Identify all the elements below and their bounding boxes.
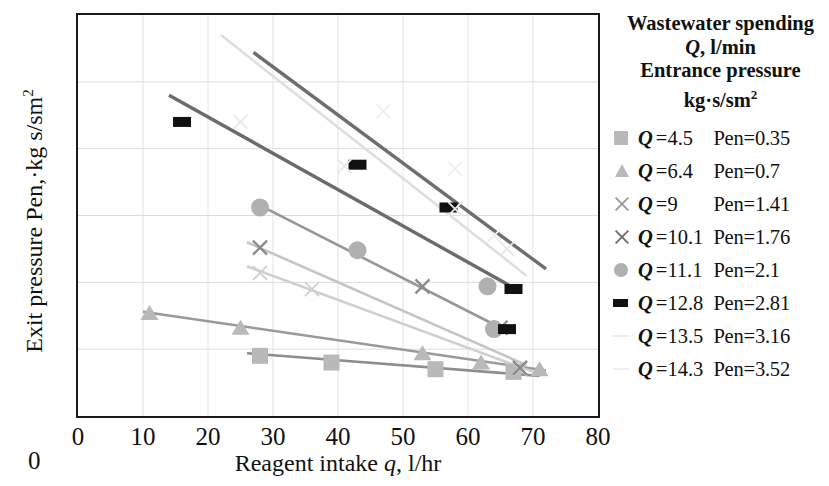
legend-marker-triangle	[615, 164, 629, 177]
x-tick-label: 10	[113, 424, 173, 449]
legend-item-q-symbol: Q	[638, 259, 653, 282]
legend-item-pen-value: Pen=3.16	[713, 325, 790, 348]
legend-marker-rect	[613, 299, 628, 307]
legend-marker-slot	[612, 227, 634, 247]
legend-title-pressure-units: kg·s/sm	[684, 88, 751, 110]
legend-marker-dash	[613, 335, 629, 337]
legend-item[interactable]: Q=11.1Pen=2.1	[612, 254, 829, 287]
x-axis-title: Reagent intake q, l/hr	[76, 450, 600, 477]
legend-item[interactable]: Q=4.5Pen=0.35	[612, 122, 829, 155]
legend-item[interactable]: Q=12.8Pen=2.81	[612, 287, 829, 320]
y-axis-title-superscript: 2	[20, 89, 36, 97]
legend-item[interactable]: Q=6.4Pen=0.7	[612, 155, 829, 188]
legend-item-equals: =	[656, 127, 668, 150]
legend-item-q-symbol: Q	[638, 160, 653, 183]
chart-figure: 32.521.510.50 01020304050607080 0 Exit p…	[0, 0, 829, 486]
legend-item-q-value: 11.1	[667, 259, 713, 282]
legend-item-pen-value: Pen=0.35	[713, 127, 790, 150]
legend-marker-slot	[612, 194, 634, 214]
legend-item[interactable]: Q=9Pen=1.41	[612, 188, 829, 221]
legend-marker-slot	[612, 293, 634, 313]
legend-item-equals: =	[656, 193, 668, 216]
x-axis-title-prefix: Reagent intake	[235, 450, 384, 476]
legend-item-q-value: 12.8	[667, 292, 713, 315]
legend-title-units-superscript: 2	[751, 87, 758, 102]
legend-title-line-3: Entrance pressure	[612, 59, 829, 83]
legend-title-line-4: kg·s/sm2	[612, 83, 829, 112]
x-tick-label: 40	[308, 424, 368, 449]
legend-item-q-value: 4.5	[667, 127, 713, 150]
origin-zero-label: 0	[28, 448, 41, 473]
plot-area	[76, 13, 600, 418]
legend-item-equals: =	[656, 160, 668, 183]
data-point-marker	[252, 348, 268, 364]
legend-item-q-value: 6.4	[667, 160, 713, 183]
data-point-marker	[349, 160, 367, 170]
legend-marker-square	[614, 131, 628, 145]
legend-item-pen-value: Pen=2.81	[713, 292, 790, 315]
legend-item-q-value: 9	[667, 193, 713, 216]
legend-item-equals: =	[656, 292, 668, 315]
legend-item[interactable]: Q=13.5Pen=3.16	[612, 320, 829, 353]
legend-title-q-symbol: Q	[685, 36, 700, 58]
data-point-marker	[377, 104, 391, 118]
y-axis-title-text: Exit pressure Pen,·kg s/sm	[21, 97, 47, 353]
data-point-marker	[234, 115, 248, 129]
legend-item-q-symbol: Q	[638, 292, 653, 315]
data-point-marker	[349, 241, 367, 259]
legend-item-q-symbol: Q	[638, 358, 653, 381]
legend-marker-slot	[612, 128, 634, 148]
data-series-layer	[78, 15, 598, 416]
legend-item-equals: =	[656, 259, 668, 282]
legend-marker-dash-light	[613, 368, 629, 370]
legend-item[interactable]: Q=14.3Pen=3.52	[612, 353, 829, 386]
x-tick-label: 20	[178, 424, 238, 449]
legend-item-q-value: 10.1	[667, 226, 713, 249]
legend-item-q-symbol: Q	[638, 193, 653, 216]
data-point-marker	[505, 284, 523, 294]
legend-marker-slot	[612, 260, 634, 280]
data-point-marker	[251, 198, 269, 216]
legend-item-q-value: 14.3	[667, 358, 713, 381]
legend: Wastewater spending Q, l/min Entrance pr…	[612, 0, 829, 486]
legend-title: Wastewater spending Q, l/min Entrance pr…	[612, 12, 829, 112]
legend-marker-x-dark	[612, 227, 632, 247]
y-axis-title: Exit pressure Pen,·kg s/sm2	[20, 11, 48, 431]
legend-item[interactable]: Q=10.1Pen=1.76	[612, 221, 829, 254]
legend-item-pen-value: Pen=0.7	[713, 160, 780, 183]
x-tick-label: 50	[373, 424, 433, 449]
legend-marker-slot	[612, 161, 634, 181]
legend-item-pen-value: Pen=1.41	[713, 193, 790, 216]
legend-item-pen-value: Pen=1.76	[713, 226, 790, 249]
legend-marker-slot	[612, 326, 634, 346]
x-tick-label: 60	[438, 424, 498, 449]
legend-marker-slot	[612, 359, 634, 379]
legend-title-q-units: , l/min	[700, 36, 756, 58]
data-point-marker	[448, 162, 462, 176]
legend-marker-circle	[614, 263, 628, 277]
x-axis-title-suffix: , l/hr	[396, 450, 441, 476]
data-point-marker	[498, 324, 516, 334]
legend-title-line-1: Wastewater spending	[612, 12, 829, 36]
data-point-marker	[253, 241, 267, 255]
legend-title-line-2: Q, l/min	[612, 36, 829, 60]
data-point-marker	[500, 242, 514, 256]
data-point-marker	[479, 277, 497, 295]
legend-item-equals: =	[656, 325, 668, 348]
legend-item-q-symbol: Q	[638, 325, 653, 348]
legend-item-q-value: 13.5	[667, 325, 713, 348]
x-tick-label: 70	[503, 424, 563, 449]
x-tick-label: 30	[243, 424, 303, 449]
trend-line	[254, 202, 501, 328]
data-point-marker	[428, 361, 444, 377]
trend-line	[247, 353, 540, 376]
legend-item-equals: =	[656, 226, 668, 249]
legend-item-q-symbol: Q	[638, 226, 653, 249]
legend-items: Q=4.5Pen=0.35Q=6.4Pen=0.7Q=9Pen=1.41Q=10…	[612, 122, 829, 386]
plot-wrapper: 32.521.510.50 01020304050607080 0 Exit p…	[0, 0, 612, 486]
trend-line	[254, 52, 547, 269]
legend-item-equals: =	[656, 358, 668, 381]
legend-item-pen-value: Pen=2.1	[713, 259, 780, 282]
legend-item-q-symbol: Q	[638, 127, 653, 150]
data-point-marker	[173, 117, 191, 127]
